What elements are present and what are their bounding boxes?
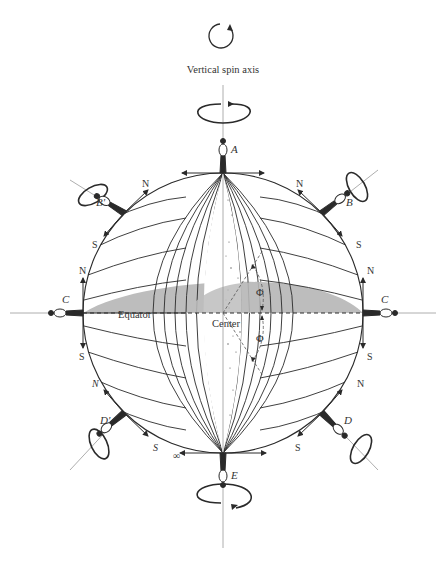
label-C-left: C: [62, 293, 70, 305]
label-north: N: [142, 178, 149, 189]
equator-label: Equator: [118, 309, 152, 320]
label-south: S: [295, 442, 301, 453]
rotation-arrow-icon: [209, 24, 233, 48]
label-A: A: [230, 143, 238, 155]
label-north: N: [91, 378, 100, 389]
label-north: N: [357, 378, 364, 389]
center-label: Center: [212, 318, 240, 329]
angle-phi-lower: Φ: [256, 333, 264, 344]
label-north: N: [367, 265, 374, 276]
label-north: N: [296, 178, 303, 189]
label-B: B: [346, 196, 353, 208]
infinity-label: ∞: [173, 450, 180, 461]
angle-phi-upper: Φ: [256, 287, 264, 298]
label-south: S: [356, 239, 362, 250]
label-C-right: C: [381, 293, 389, 305]
label-D-prime: D': [99, 414, 111, 426]
globe-diagram: A B' B C C D' D E N S N S N S N S N S N …: [0, 0, 446, 568]
label-south: S: [79, 351, 85, 362]
label-north: N: [79, 265, 86, 276]
label-D: D: [343, 414, 352, 426]
label-E: E: [230, 469, 238, 481]
label-south: S: [92, 239, 98, 250]
label-south: S: [153, 442, 158, 453]
label-south: S: [367, 351, 373, 362]
label-B-prime: B': [96, 196, 106, 208]
